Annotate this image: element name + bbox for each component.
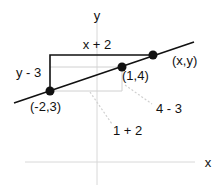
leader-rise (125, 85, 152, 104)
point-neg2-3 (46, 87, 55, 96)
point-x-y (149, 51, 158, 60)
leader-run (90, 92, 112, 124)
slope-diagram: x y 4 - 3 1 + 2 x + 2 y - 3 (-2,3) (1,4)… (0, 0, 224, 189)
large-run-label: x + 2 (83, 37, 112, 52)
point-1-4-label: (1,4) (122, 68, 149, 83)
small-rise-label: 4 - 3 (156, 101, 182, 116)
large-rise-label: y - 3 (16, 65, 41, 80)
point-x-y-label: (x,y) (172, 53, 197, 68)
y-axis-label: y (94, 8, 101, 23)
point-neg2-3-label: (-2,3) (30, 99, 61, 114)
x-axis-label: x (205, 155, 212, 170)
small-slope-triangle: 4 - 3 1 + 2 (50, 67, 182, 138)
small-run-label: 1 + 2 (113, 123, 142, 138)
axes: x y (25, 8, 212, 185)
